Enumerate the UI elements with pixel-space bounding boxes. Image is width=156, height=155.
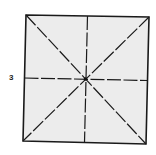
origami-diagram [0,0,156,155]
center-point [84,77,88,81]
step-number: 3 [9,73,13,82]
